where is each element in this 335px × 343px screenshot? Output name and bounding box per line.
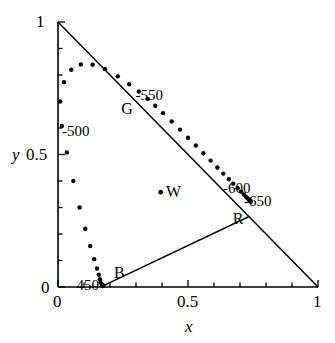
primary-R-label: R [233,211,244,227]
x-tick-label-0: 0 [53,293,62,310]
wavelength-450-label: 450- [77,278,105,293]
primary-G-label: G [121,101,133,117]
locus-dot-31 [194,143,198,147]
white-point-W-label: W [166,184,181,200]
locus-dot-23 [127,82,131,86]
x-plus-y-equals-1 [58,22,318,287]
locus-dot-22 [116,74,120,78]
locus-dot-21 [103,67,107,71]
locus-dot-8 [95,266,99,270]
locus-dot-28 [169,119,173,123]
locus-dot-26 [153,104,157,108]
locus-dot-19 [79,62,83,66]
x-tick-label-1: 1 [313,293,322,310]
wavelength-650-label: -650 [244,194,272,209]
locus-dot-29 [178,127,182,131]
locus-dot-14 [65,150,69,154]
locus-dot-16 [58,99,62,103]
wavelength-550-label: -550 [135,88,163,103]
chart-canvas [0,0,335,343]
locus-dot-30 [186,136,190,140]
locus-dot-18 [69,68,73,72]
locus-dot-9 [92,257,96,261]
y-tick-label-1: 1 [36,13,45,30]
chromaticity-diagram-figure: 1 0.5 0 0 0.5 1 x y 450--500-550-600-650… [0,0,335,343]
wavelength-500-label: -500 [62,124,90,139]
locus-dot-34 [215,165,219,169]
locus-dot-17 [62,80,66,84]
purple-line-B-to-R [104,217,249,286]
chart-lines-group [58,22,318,287]
locus-dot-32 [201,151,205,155]
y-tick-label-0: 0 [41,279,50,296]
locus-dot-10 [88,244,92,248]
x-axis-title: x [185,318,193,335]
y-tick-label-0-5: 0.5 [26,146,47,163]
y-axis-title: y [12,146,20,163]
locus-dot-27 [161,111,165,115]
x-tick-label-0-5: 0.5 [177,293,198,310]
locus-dot-11 [83,227,87,231]
locus-dot-35 [221,171,225,175]
locus-dot-20 [90,62,94,66]
locus-dot-13 [71,179,75,183]
primary-B-label: B [114,265,125,281]
locus-dot-12 [77,205,81,209]
locus-dot-33 [208,158,212,162]
marked-points-group [158,190,163,195]
point-w [158,190,163,195]
